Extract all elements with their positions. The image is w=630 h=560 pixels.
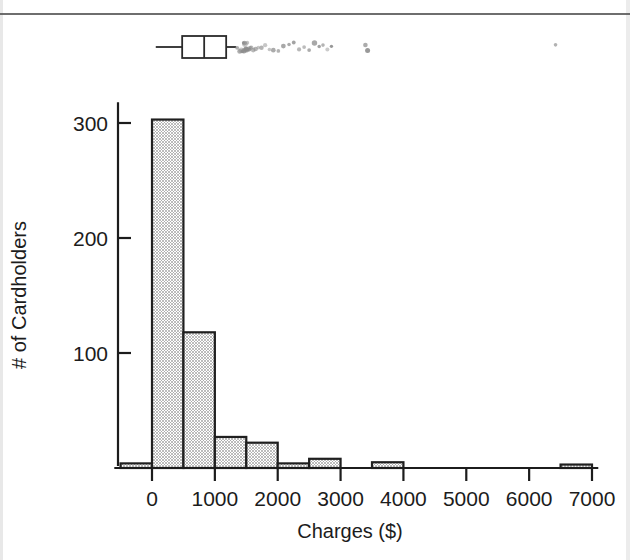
x-tick-label: 1000 bbox=[191, 487, 238, 510]
boxplot-outlier-point bbox=[365, 48, 370, 53]
boxplot bbox=[156, 36, 558, 58]
boxplot-outlier-point bbox=[363, 43, 368, 48]
x-tick-label: 0 bbox=[146, 487, 158, 510]
boxplot-outlier-point bbox=[271, 48, 276, 53]
histogram-bar bbox=[246, 443, 277, 468]
y-tick-label: 100 bbox=[73, 342, 108, 365]
boxplot-outlier-point bbox=[276, 49, 280, 53]
boxplot-outlier-point bbox=[259, 46, 263, 50]
x-tick-label: 3000 bbox=[317, 487, 364, 510]
histogram-bar bbox=[152, 120, 183, 468]
boxplot-outlier-point bbox=[297, 47, 301, 51]
chart-labels: 01000200030004000500060007000100200300Ch… bbox=[8, 112, 615, 542]
histogram-bar bbox=[215, 437, 246, 468]
boxplot-outlier-point bbox=[325, 47, 329, 51]
figure-canvas: 01000200030004000500060007000100200300Ch… bbox=[0, 0, 630, 560]
x-axis-title: Charges ($) bbox=[297, 520, 403, 542]
x-tick-label: 5000 bbox=[443, 487, 490, 510]
x-tick-label: 7000 bbox=[569, 487, 616, 510]
boxplot-outlier-point bbox=[307, 48, 311, 52]
boxplot-outlier-point bbox=[292, 41, 296, 45]
y-tick-label: 200 bbox=[73, 227, 108, 250]
boxplot-outlier-point bbox=[287, 43, 291, 47]
x-tick-label: 6000 bbox=[506, 487, 553, 510]
y-tick-label: 300 bbox=[73, 112, 108, 135]
boxplot-outlier-point bbox=[268, 48, 272, 52]
x-tick-label: 4000 bbox=[380, 487, 427, 510]
x-tick-label: 2000 bbox=[254, 487, 301, 510]
histogram-bar bbox=[183, 332, 214, 468]
boxplot-outlier-point bbox=[317, 45, 320, 48]
y-axis-title: # of Cardholders bbox=[8, 221, 30, 369]
boxplot-outlier-point bbox=[263, 43, 267, 47]
boxplot-outlier-point bbox=[302, 45, 306, 49]
boxplot-outlier-point bbox=[321, 43, 325, 47]
boxplot-outlier-point bbox=[330, 45, 333, 48]
histogram-bar bbox=[309, 459, 340, 468]
boxplot-outlier-point bbox=[235, 46, 239, 50]
histogram-bars bbox=[121, 120, 592, 468]
boxplot-outlier-point bbox=[312, 40, 317, 45]
boxplot-outlier-point bbox=[281, 44, 286, 49]
boxplot-outlier-point bbox=[245, 41, 249, 45]
chart-plot-area: 01000200030004000500060007000100200300Ch… bbox=[0, 0, 630, 560]
boxplot-outlier-point bbox=[554, 43, 558, 47]
